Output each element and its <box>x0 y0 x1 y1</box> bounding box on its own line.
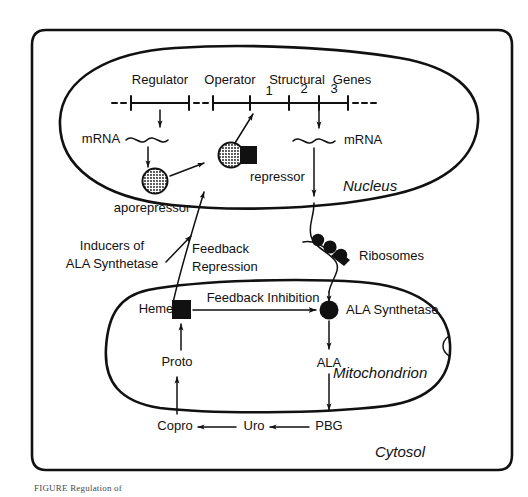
structural-gene-number-1: 1 <box>265 83 272 98</box>
heme-label: Heme <box>139 301 174 316</box>
figure-caption: FIGURE Regulation of <box>34 483 122 493</box>
gene-label-structural: Structural <box>269 72 325 87</box>
ribosome-icon <box>312 234 350 266</box>
ala-synthetase-label: ALA Synthetase <box>346 302 439 317</box>
aporepressor-label: aporepressor <box>114 200 191 215</box>
cytosol-label: Cytosol <box>375 443 426 460</box>
feedback-repression-label-line1: Feedback <box>192 241 250 256</box>
ribosomes-label: Ribosomes <box>359 248 425 263</box>
copro-label: Copro <box>157 418 192 433</box>
figure-root: Nucleus Mitochondrion Cytosol <box>0 0 528 497</box>
proto-label: Proto <box>161 354 192 369</box>
feedback-inhibition-label: Feedback Inhibition <box>207 290 320 305</box>
ala-synthetase-icon <box>320 301 339 320</box>
structural-mrna-icon <box>293 139 335 143</box>
gene-label-genes: Genes <box>333 72 372 87</box>
nucleus-label: Nucleus <box>343 177 398 194</box>
regulator-mrna-label: mRNA <box>82 131 121 146</box>
mitochondrion-label: Mitochondrion <box>333 364 427 381</box>
repressor-icon <box>219 143 258 168</box>
structural-gene-number-2: 2 <box>300 81 307 96</box>
feedback-repression-label-line2: Repression <box>192 259 258 274</box>
regulator-mrna-icon <box>126 138 168 142</box>
structural-gene-number-3: 3 <box>330 81 337 96</box>
structural-mrna-label: mRNA <box>344 132 383 147</box>
heme-icon <box>172 300 191 319</box>
uro-label: Uro <box>244 418 265 433</box>
pbg-label: PBG <box>315 418 342 433</box>
gene-label-operator: Operator <box>204 72 256 87</box>
gene-label-regulator: Regulator <box>132 72 189 87</box>
repressor-label: repressor <box>250 169 306 184</box>
inducers-label-line1: Inducers of <box>80 238 145 253</box>
aporepressor-icon <box>143 169 168 194</box>
inducers-label-line2: ALA Synthetase <box>66 256 159 271</box>
diagram-canvas: Nucleus Mitochondrion Cytosol <box>0 0 528 497</box>
ala-label: ALA <box>317 355 342 370</box>
aporepressor-to-repressor-arrow <box>170 163 204 176</box>
gene-map <box>112 96 376 110</box>
repressor-to-operator-arrow <box>235 114 253 143</box>
